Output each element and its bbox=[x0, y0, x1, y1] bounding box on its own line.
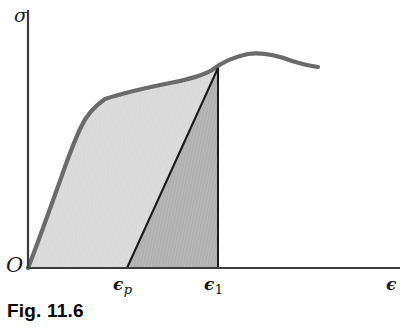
tick-label-epsilon-1: ϵ1 bbox=[204, 276, 223, 296]
tick-symbol-epsilon-p: ϵ bbox=[113, 274, 123, 294]
figure-caption: Fig. 11.6 bbox=[7, 300, 84, 322]
tick-subscript-p: p bbox=[124, 282, 132, 297]
stress-strain-figure: σ O ϵ ϵp ϵ1 Fig. 11.6 bbox=[0, 0, 414, 330]
tick-symbol-epsilon-1: ϵ bbox=[204, 274, 214, 294]
tick-label-epsilon-p: ϵp bbox=[113, 276, 132, 296]
tick-subscript-1: 1 bbox=[215, 282, 223, 297]
x-axis-label-epsilon: ϵ bbox=[386, 276, 396, 293]
origin-label: O bbox=[6, 255, 23, 276]
y-axis-label-sigma: σ bbox=[14, 6, 27, 25]
